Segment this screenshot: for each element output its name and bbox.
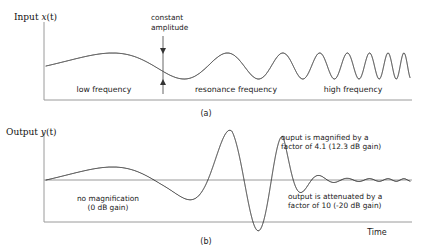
- attenuated-label-line2: factor of 10 (-20 dB gain): [288, 201, 382, 210]
- magnified-label-line2: factor of 4.1 (12.3 dB gain): [281, 142, 381, 151]
- x-axis-label-time: Time: [366, 228, 387, 237]
- resonance-figure: Input x(t) constant amplitude low freque…: [0, 0, 422, 249]
- input-waveform: [46, 53, 410, 79]
- panel-a-caption: (a): [200, 109, 211, 118]
- panel-a-y-axis-label: Input x(t): [14, 12, 57, 22]
- region-label-resonance-frequency: resonance frequency: [195, 85, 277, 94]
- region-label-low-frequency: low frequency: [77, 85, 132, 94]
- no-magnification-label-line1: no magnification: [77, 194, 139, 203]
- panel-a: Input x(t) constant amplitude low freque…: [14, 12, 412, 118]
- attenuated-label-line1: output is attenuated by a: [288, 192, 382, 201]
- constant-amplitude-marker: [160, 36, 166, 94]
- constant-amplitude-label-line1: constant: [151, 13, 183, 22]
- panel-b-y-axis-label: Output y(t): [6, 127, 57, 137]
- magnified-label-line1: ouput is magnified by a: [281, 133, 368, 142]
- no-magnification-label-line2: (0 dB gain): [88, 203, 129, 212]
- panel-b-caption: (b): [200, 237, 211, 246]
- constant-amplitude-label-line2: amplitude: [151, 23, 189, 32]
- region-label-high-frequency: high frequency: [324, 85, 383, 94]
- panel-b: Output y(t) no magnification (0 dB gain)…: [6, 127, 412, 246]
